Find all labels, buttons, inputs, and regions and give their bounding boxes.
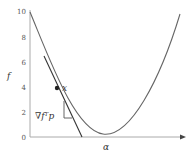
point-x (55, 86, 59, 90)
line-search-diagram: 0 2 4 6 8 10 x ∇fᵀp f α (0, 0, 191, 155)
y-axis-label: f (6, 71, 12, 81)
ytick-2: 2 (22, 109, 26, 117)
ytick-0: 0 (22, 134, 26, 142)
slope-label: ∇fᵀp (35, 111, 54, 121)
tangent-line (44, 56, 82, 137)
ytick-6: 6 (22, 59, 27, 67)
ytick-10: 10 (17, 8, 26, 16)
y-ticks: 0 2 4 6 8 10 (17, 8, 26, 142)
x-axis-label: α (103, 142, 109, 152)
ytick-4: 4 (22, 84, 27, 92)
point-x-label: x (62, 83, 67, 93)
ytick-8: 8 (22, 34, 26, 42)
x-axis-arrow-icon (180, 135, 186, 140)
